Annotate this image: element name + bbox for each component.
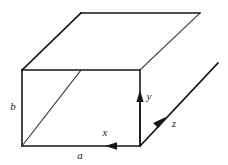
waveguide-diagram-canvas: x y z a b — [0, 0, 228, 165]
interior-diagonal-edge — [22, 70, 81, 146]
height-dimension-label: b — [10, 100, 16, 112]
receding-edge-bottom-right — [140, 63, 218, 146]
front-face-group — [22, 70, 140, 146]
x-axis-label: x — [102, 126, 108, 138]
y-axis-group: y — [136, 90, 151, 146]
receding-edge-top-right — [140, 13, 200, 70]
receding-edge-top-left — [22, 13, 81, 70]
y-axis-arrowhead-icon — [136, 90, 143, 102]
receding-edges-group — [22, 13, 218, 146]
z-axis-label: z — [171, 118, 176, 129]
x-axis-arrowhead-icon — [105, 142, 117, 150]
width-dimension-label: a — [77, 149, 83, 161]
waveguide-figure: x y z a b — [0, 0, 228, 165]
y-axis-label: y — [146, 90, 152, 102]
